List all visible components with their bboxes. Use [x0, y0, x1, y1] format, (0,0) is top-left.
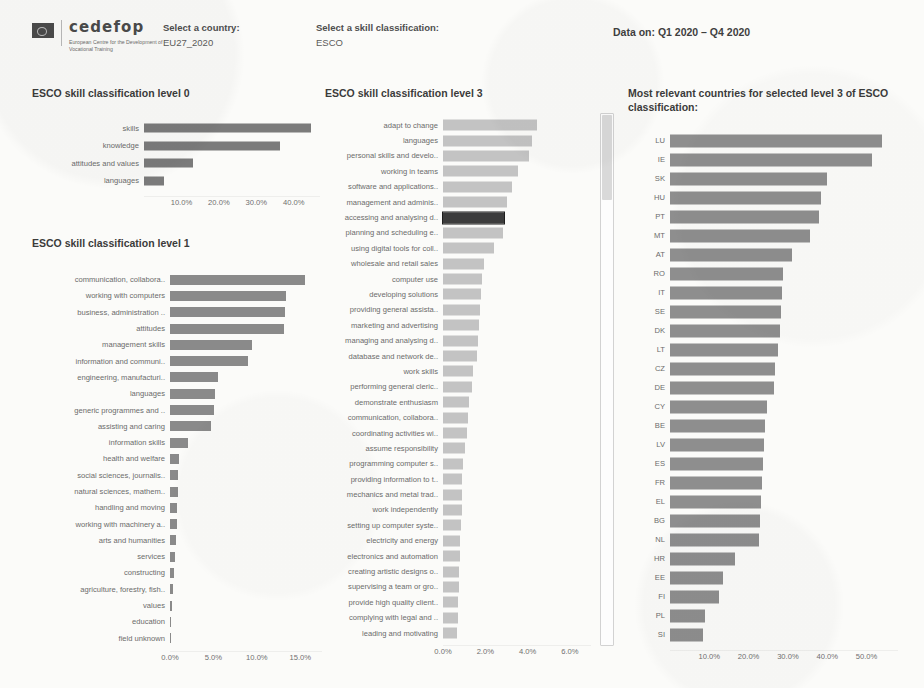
chart-bar[interactable]	[443, 381, 472, 392]
chart-bar[interactable]	[443, 428, 467, 439]
chart-row[interactable]: personal skills and develo..	[325, 148, 597, 163]
chart-row-label: skills	[32, 124, 144, 133]
chart-bar-track	[443, 379, 597, 394]
chart-bar[interactable]	[443, 612, 458, 623]
chart-row[interactable]: communication, collabora..	[325, 410, 597, 425]
chart-bar[interactable]	[443, 166, 518, 177]
chart-row[interactable]: adapt to change	[325, 118, 597, 133]
chart-bar[interactable]	[443, 397, 469, 408]
axis-tick-label: 5.0%	[205, 653, 222, 662]
chart-row-label: management and adminis..	[325, 198, 443, 207]
chart-bar-track	[670, 226, 910, 245]
chart-bar-track	[443, 441, 597, 456]
chart-row[interactable]: coordinating activities wi..	[325, 425, 597, 440]
scrollbar-thumb[interactable]	[602, 115, 612, 200]
chart-bar	[670, 552, 735, 565]
chart-row: engineering, manufacturi..	[32, 369, 324, 385]
chart-bar[interactable]	[443, 320, 479, 331]
country-selector[interactable]: Select a country: EU27_2020	[163, 22, 240, 49]
chart-bar[interactable]	[443, 289, 481, 300]
chart-row-label: BE	[628, 421, 670, 430]
chart-row[interactable]: performing general cleric..	[325, 379, 597, 394]
chart-row[interactable]: work independently	[325, 502, 597, 517]
chart-row[interactable]: mechanics and metal trad..	[325, 487, 597, 502]
chart-row: RO	[628, 264, 910, 283]
chart-bar[interactable]	[443, 628, 457, 639]
chart-row[interactable]: setting up computer syste..	[325, 518, 597, 533]
chart-row[interactable]: database and network de..	[325, 348, 597, 363]
chart-bar[interactable]	[443, 551, 460, 562]
chart-bar[interactable]	[443, 351, 477, 362]
chart-row-label: EE	[628, 573, 670, 582]
chart-row[interactable]: providing information to t..	[325, 471, 597, 486]
chart-bar-track	[670, 359, 910, 378]
chart-row: LT	[628, 340, 910, 359]
chart-bar[interactable]	[443, 274, 482, 285]
chart-bar[interactable]	[443, 181, 512, 192]
chart-bar[interactable]	[443, 258, 484, 269]
chart-row[interactable]: demonstrate enthusiasm	[325, 395, 597, 410]
country-selector-value[interactable]: EU27_2020	[163, 36, 240, 49]
chart-bar[interactable]	[443, 243, 494, 254]
chart-row[interactable]: wholesale and retail sales	[325, 256, 597, 271]
chart-bar[interactable]	[443, 443, 465, 454]
panel-level1: ESCO skill classification level 1 commun…	[32, 237, 324, 665]
chart-bar[interactable]	[443, 150, 529, 161]
chart-bar[interactable]	[443, 227, 503, 238]
chart-row[interactable]: management and adminis..	[325, 194, 597, 209]
chart-row[interactable]: creating artistic designs o..	[325, 564, 597, 579]
skill-classification-value[interactable]: ESCO	[316, 36, 439, 49]
chart-bar[interactable]	[443, 412, 468, 423]
chart-row[interactable]: developing solutions	[325, 287, 597, 302]
chart-row[interactable]: leading and motivating	[325, 625, 597, 640]
chart-row[interactable]: computer use	[325, 271, 597, 286]
chart-bar[interactable]	[443, 135, 532, 146]
chart-row[interactable]: supervising a team or gro..	[325, 579, 597, 594]
axis-line	[670, 650, 898, 651]
level3-vertical-scrollbar[interactable]	[600, 113, 614, 646]
chart-row[interactable]: electricity and energy	[325, 533, 597, 548]
chart-row[interactable]: using digital tools for coll..	[325, 241, 597, 256]
chart-row: health and welfare	[32, 451, 324, 467]
chart-row[interactable]: software and applications..	[325, 179, 597, 194]
axis-tick-label: 0.0%	[434, 647, 451, 656]
chart-row-label: personal skills and develo..	[325, 151, 443, 160]
chart-row-label: HR	[628, 554, 670, 563]
chart-bar[interactable]	[443, 566, 459, 577]
chart-bar[interactable]	[443, 335, 478, 346]
chart-bar[interactable]	[443, 520, 461, 531]
chart-bar[interactable]	[443, 474, 462, 485]
chart-bar[interactable]	[443, 304, 480, 315]
chart-bar[interactable]	[443, 120, 537, 131]
chart-row[interactable]: providing general assista..	[325, 302, 597, 317]
chart-row[interactable]: assume responsibility	[325, 441, 597, 456]
chart-row[interactable]: electronics and automation	[325, 548, 597, 563]
chart-row[interactable]: complying with legal and ..	[325, 610, 597, 625]
chart-bar[interactable]	[443, 489, 462, 500]
chart-row[interactable]: programming computer s..	[325, 456, 597, 471]
chart-bar[interactable]	[443, 197, 507, 208]
chart-row[interactable]: marketing and advertising	[325, 318, 597, 333]
chart-bar-track	[443, 487, 597, 502]
chart-bar[interactable]	[443, 366, 473, 377]
chart-row[interactable]: work skills	[325, 364, 597, 379]
chart-bar[interactable]	[443, 504, 462, 515]
chart-row-label: services	[32, 552, 170, 561]
chart-bar-track	[670, 207, 910, 226]
chart-row[interactable]: provide high quality client..	[325, 595, 597, 610]
chart-bar[interactable]	[443, 581, 459, 592]
chart-row[interactable]: accessing and analysing d..	[325, 210, 597, 225]
chart-row[interactable]: languages	[325, 133, 597, 148]
chart-bar[interactable]	[443, 458, 463, 469]
chart-row[interactable]: planning and scheduling e..	[325, 225, 597, 240]
chart-row[interactable]: working in teams	[325, 164, 597, 179]
chart-bar[interactable]	[443, 535, 460, 546]
chart-row-label: LT	[628, 345, 670, 354]
chart-bar-track	[670, 264, 910, 283]
chart-level3[interactable]: adapt to changelanguagespersonal skills …	[325, 118, 597, 659]
chart-bar[interactable]	[443, 597, 458, 608]
chart-bar	[170, 291, 286, 301]
chart-bar-selected[interactable]	[443, 212, 504, 223]
skill-classification-selector[interactable]: Select a skill classification: ESCO	[316, 22, 439, 49]
chart-row[interactable]: managing and analysing d..	[325, 333, 597, 348]
